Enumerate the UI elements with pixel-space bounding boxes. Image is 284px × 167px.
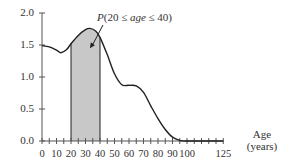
x-axis-title: Age (years) bbox=[240, 128, 284, 152]
annotation-suffix: ≤ 40) bbox=[146, 11, 172, 23]
y-tick-label: 1.0 bbox=[4, 71, 34, 82]
shaded-region bbox=[71, 28, 100, 141]
x-axis-title-line1: Age bbox=[240, 128, 284, 140]
x-tick-label: 125 bbox=[211, 148, 235, 159]
density-line bbox=[42, 28, 223, 141]
annotation-p: P bbox=[97, 11, 104, 23]
y-tick-label: 2.0 bbox=[4, 7, 34, 18]
x-tick-label: 100 bbox=[175, 148, 199, 159]
annotation-var: age bbox=[130, 11, 146, 23]
y-tick-label: 0.0 bbox=[4, 135, 34, 146]
y-tick-label: 0.5 bbox=[4, 103, 34, 114]
y-axis bbox=[39, 13, 45, 141]
density-curve bbox=[42, 28, 223, 141]
annotation-prefix: (20 ≤ bbox=[104, 11, 130, 23]
y-tick-label: 1.5 bbox=[4, 39, 34, 50]
probability-annotation: P(20 ≤ age ≤ 40) bbox=[97, 11, 172, 23]
shaded-area bbox=[71, 28, 100, 141]
x-axis-title-line2: (years) bbox=[240, 140, 284, 152]
